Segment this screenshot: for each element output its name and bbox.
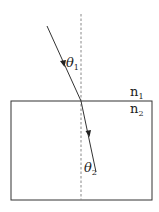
n1-label: n1 — [130, 84, 143, 101]
theta2-label: θ2 — [84, 160, 97, 177]
n2-label: n2 — [130, 101, 143, 118]
refraction-diagram: θ1 n1 n2 θ2 — [0, 0, 159, 212]
theta1-label: θ1 — [66, 55, 79, 72]
